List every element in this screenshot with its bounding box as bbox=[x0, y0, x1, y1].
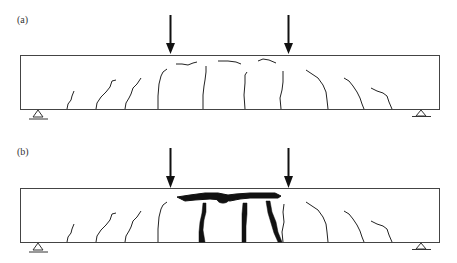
cracks-b-heavy bbox=[177, 193, 282, 242]
cracks-b-thin bbox=[67, 202, 392, 242]
panel-b bbox=[21, 148, 440, 252]
pin-support-icon bbox=[29, 243, 48, 252]
pin-support-icon bbox=[412, 243, 431, 250]
cracks-a bbox=[67, 59, 392, 109]
load-arrow-icon bbox=[284, 148, 293, 188]
pin-support-icon bbox=[29, 110, 48, 119]
beam-diagram bbox=[0, 0, 457, 263]
load-arrow-icon bbox=[166, 15, 175, 54]
load-arrow-icon bbox=[166, 148, 175, 188]
pin-support-icon bbox=[412, 110, 431, 117]
load-arrow-icon bbox=[284, 15, 293, 54]
panel-a bbox=[21, 15, 440, 119]
beam-a bbox=[21, 56, 440, 110]
